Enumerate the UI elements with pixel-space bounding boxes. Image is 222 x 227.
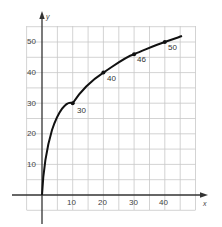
x-axis-arrow-icon	[200, 192, 208, 197]
y-axis-arrow-icon	[39, 11, 44, 19]
x-tick-label: 10	[67, 198, 76, 207]
y-tick-label: 10	[27, 160, 36, 169]
point-label: 30	[77, 106, 86, 115]
x-tick-label: 30	[129, 198, 138, 207]
y-tick-label: 50	[27, 37, 36, 46]
y-tick-label: 30	[27, 99, 36, 108]
x-axis-label: x	[202, 200, 207, 207]
grid	[27, 26, 196, 210]
data-point	[71, 101, 75, 105]
x-tick-label: 20	[98, 198, 107, 207]
x-tick-label: 40	[159, 198, 168, 207]
y-axis-label: y	[45, 13, 50, 21]
point-label: 40	[107, 74, 116, 83]
data-point	[101, 71, 105, 75]
data-point	[132, 52, 136, 56]
chart: x y 10 20 30 40 10 20 30 40 50 30 40 46 …	[0, 0, 222, 227]
point-label: 50	[168, 43, 177, 52]
y-tick-label: 40	[27, 68, 36, 77]
data-curve	[42, 36, 182, 195]
point-label: 46	[137, 55, 146, 64]
y-tick-label: 20	[27, 129, 36, 138]
data-point	[163, 40, 167, 44]
